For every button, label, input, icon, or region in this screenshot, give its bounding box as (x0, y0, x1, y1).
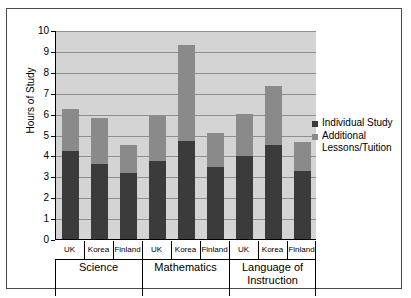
x-axis-group-separator (55, 260, 56, 296)
chart-legend: Individual Study AdditionalLessons/Tuiti… (312, 117, 408, 155)
bar-segment-individual-study (236, 156, 253, 239)
x-axis-category-label-science-finland: Finland (113, 241, 142, 259)
bar-segment-additional-lessons (236, 114, 253, 157)
x-axis-group-separator (229, 260, 230, 296)
bar-segment-additional-lessons (265, 86, 282, 145)
y-axis-tick-label-0: 0 (7, 234, 55, 245)
legend-label-additional-lessons: AdditionalLessons/Tuition (322, 130, 392, 154)
bar-mathematics-uk (149, 116, 166, 239)
x-axis-separator (84, 241, 85, 259)
x-axis-group-label-language-of-instruction: Language ofInstruction (229, 261, 316, 287)
y-axis-tick-label-10: 10 (7, 25, 55, 36)
bar-science-korea (91, 118, 108, 239)
bar-segment-individual-study (62, 151, 79, 239)
x-axis-category-label-science-uk: UK (55, 241, 84, 259)
bar-segment-individual-study (265, 145, 282, 239)
bar-language-of-instruction-korea (265, 86, 282, 239)
chart-outer-frame: Hours of Study 109876543210 UKKoreaFinla… (6, 8, 402, 289)
x-axis-category-label-language-of-instruction-finland: Finland (287, 241, 316, 259)
bar-segment-individual-study (178, 141, 195, 239)
legend-swatch-additional-lessons (312, 134, 318, 140)
x-axis-category-label-language-of-instruction-uk: UK (229, 241, 258, 259)
bar-segment-additional-lessons (294, 142, 311, 171)
bars-layer (56, 31, 316, 239)
bar-segment-additional-lessons (91, 118, 108, 164)
x-axis-category-label-mathematics-uk: UK (142, 241, 171, 259)
x-axis-separator (287, 241, 288, 259)
legend-item-additional-lessons: AdditionalLessons/Tuition (312, 130, 408, 154)
bar-segment-additional-lessons (149, 116, 166, 161)
x-axis-separator (113, 241, 114, 259)
bar-segment-individual-study (294, 171, 311, 239)
bar-segment-additional-lessons (120, 145, 137, 173)
x-axis-separator (142, 241, 143, 259)
y-axis-tick-label-1: 1 (7, 213, 55, 224)
y-axis-tick-label-9: 9 (7, 46, 55, 57)
x-axis-category-label-mathematics-finland: Finland (200, 241, 229, 259)
x-axis-category-band: UKKoreaFinlandUKKoreaFinlandUKKoreaFinla… (55, 241, 316, 260)
y-axis-tick-label-5: 5 (7, 130, 55, 141)
bar-segment-additional-lessons (207, 133, 224, 166)
y-axis-tick-label-8: 8 (7, 67, 55, 78)
plot-area (55, 31, 316, 240)
bar-segment-individual-study (207, 167, 224, 239)
bar-segment-individual-study (91, 164, 108, 239)
bar-language-of-instruction-uk (236, 114, 253, 239)
x-axis-separator (229, 241, 230, 259)
y-axis-tick-label-6: 6 (7, 109, 55, 120)
y-axis-ticks: 109876543210 (7, 9, 55, 241)
legend-swatch-individual-study (312, 121, 318, 127)
chart-screenshot: Hours of Study 109876543210 UKKoreaFinla… (0, 0, 411, 298)
legend-label-individual-study: Individual Study (322, 117, 393, 129)
group-label-line2: Instruction (247, 274, 298, 286)
x-axis-category-label-mathematics-korea: Korea (171, 241, 200, 259)
bar-segment-additional-lessons (62, 109, 79, 151)
bar-segment-individual-study (120, 173, 137, 239)
legend-label-line2: Lessons/Tuition (322, 142, 392, 154)
x-axis-separator (200, 241, 201, 259)
x-axis-group-label-science: Science (55, 261, 142, 274)
y-axis-tick-label-7: 7 (7, 88, 55, 99)
bar-mathematics-korea (178, 45, 195, 239)
x-axis-separator (258, 241, 259, 259)
x-axis-category-label-language-of-instruction-korea: Korea (258, 241, 287, 259)
y-axis-tick-label-4: 4 (7, 150, 55, 161)
bar-segment-additional-lessons (178, 45, 195, 141)
x-axis-category-label-science-korea: Korea (84, 241, 113, 259)
y-axis-tick-label-2: 2 (7, 192, 55, 203)
x-axis-separator (315, 241, 316, 259)
x-axis-group-separator (142, 260, 143, 296)
x-axis-group-band: ScienceMathematicsLanguage ofInstruction (55, 260, 316, 296)
x-axis-separator (171, 241, 172, 259)
x-axis-group-separator (315, 260, 316, 296)
bar-science-finland (120, 145, 137, 239)
x-axis-group-label-mathematics: Mathematics (142, 261, 229, 274)
legend-item-individual-study: Individual Study (312, 117, 408, 129)
bar-science-uk (62, 109, 79, 239)
bar-language-of-instruction-finland (294, 142, 311, 239)
y-axis-tick-label-3: 3 (7, 171, 55, 182)
legend-label-line1: Additional (322, 130, 366, 141)
group-label-line1: Language of (242, 261, 303, 273)
bar-mathematics-finland (207, 133, 224, 239)
bar-segment-individual-study (149, 161, 166, 239)
